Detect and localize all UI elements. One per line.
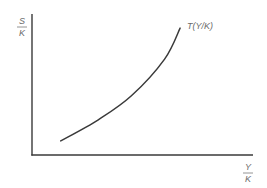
- x-axis-label: Y K: [243, 162, 253, 184]
- curve-T: [61, 28, 180, 141]
- y-label-denominator: K: [19, 28, 26, 38]
- x-label-numerator: Y: [245, 162, 252, 172]
- y-axis-label: S K: [17, 16, 27, 38]
- diagram: S K Y K T(Y/K): [0, 0, 267, 188]
- x-label-denominator: K: [245, 174, 252, 184]
- curve-label: T(Y/K): [187, 21, 213, 31]
- y-label-numerator: S: [19, 16, 25, 26]
